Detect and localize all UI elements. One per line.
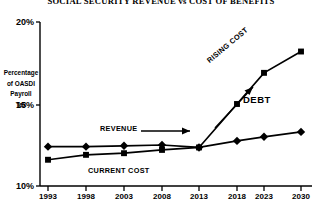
annotation-revenue: REVENUE (100, 124, 137, 133)
data-point-marker (121, 150, 127, 156)
data-point-marker (233, 137, 241, 145)
data-point-marker (260, 133, 268, 141)
data-point-marker (298, 49, 304, 55)
data-point-marker (82, 142, 90, 150)
data-point-marker (83, 152, 89, 158)
data-point-marker (261, 70, 267, 76)
data-point-marker (297, 128, 305, 136)
data-point-marker (120, 142, 128, 150)
plot-area (0, 0, 322, 212)
data-point-marker (45, 157, 51, 163)
annotation-current-cost: CURRENT COST (88, 166, 150, 175)
data-point-marker (44, 142, 52, 150)
chart-container: SOCIAL SECURITY REVENUE vs COST OF BENEF… (0, 0, 322, 212)
annotation-debt: DEBT (243, 94, 271, 105)
revenue-arrow-icon (141, 128, 190, 135)
